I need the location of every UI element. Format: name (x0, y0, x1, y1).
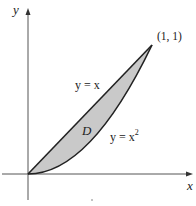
x-axis-label: x (186, 178, 193, 193)
label-y-equals-x-squared-exp: 2 (135, 128, 139, 137)
label-y-equals-x: y = x (75, 78, 100, 92)
region-diagram: y x (1, 1) y = x D y = x2 (0, 0, 196, 206)
label-y-equals-x-squared: y = x2 (110, 128, 139, 144)
label-y-equals-x-squared-base: y = x (110, 130, 135, 144)
point-label-1-1: (1, 1) (157, 30, 182, 43)
stray-dot (91, 199, 93, 201)
x-axis-arrow-icon (186, 172, 193, 177)
region-label-d: D (81, 123, 92, 138)
curve-y-equals-x (28, 45, 152, 174)
y-axis-arrow-icon (26, 8, 31, 15)
y-axis-label: y (11, 2, 19, 17)
